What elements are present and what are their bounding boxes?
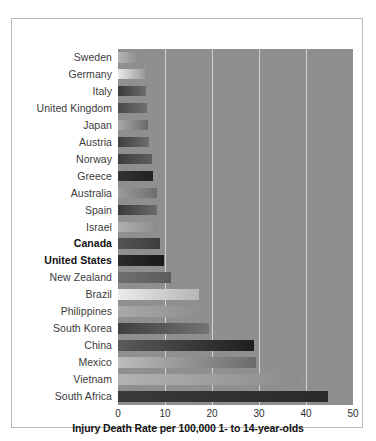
bar-row: Germany — [12, 66, 364, 83]
category-label: South Korea — [12, 320, 112, 337]
x-tick-label-10: 10 — [152, 408, 178, 419]
category-label: South Africa — [12, 388, 112, 405]
category-label: Japan — [12, 117, 112, 134]
top-cutoff-strip: · · · — [0, 0, 376, 14]
bar — [118, 374, 299, 385]
bar-row: United Kingdom — [12, 100, 364, 117]
bar-row: Mexico — [12, 354, 364, 371]
bar — [118, 222, 157, 233]
category-label: Italy — [12, 83, 112, 100]
bar — [118, 323, 209, 334]
bar — [118, 238, 160, 249]
category-label: Greece — [12, 168, 112, 185]
bar — [118, 69, 145, 80]
bar — [118, 205, 157, 216]
category-label: Australia — [12, 185, 112, 202]
bar-row: China — [12, 337, 364, 354]
category-label: Spain — [12, 202, 112, 219]
bar-row: South Africa — [12, 388, 364, 405]
bar-row: Philippines — [12, 303, 364, 320]
bar-row: Italy — [12, 83, 364, 100]
bar-row: Israel — [12, 219, 364, 236]
x-tick-label-40: 40 — [293, 408, 319, 419]
category-label: Israel — [12, 219, 112, 236]
category-label: Vietnam — [12, 371, 112, 388]
bar-row: Spain — [12, 202, 364, 219]
category-label: Norway — [12, 151, 112, 168]
category-label: Austria — [12, 134, 112, 151]
bar-rows-container: SwedenGermanyItalyUnited KingdomJapanAus… — [12, 49, 364, 405]
bar-row: Australia — [12, 185, 364, 202]
bar-row: Norway — [12, 151, 364, 168]
bar-row: Canada — [12, 235, 364, 252]
bar — [118, 357, 256, 368]
category-label: Canada — [12, 235, 112, 252]
bar — [118, 120, 148, 131]
category-label: Germany — [12, 66, 112, 83]
x-tick-label-0: 0 — [105, 408, 131, 419]
bar — [118, 52, 139, 63]
chart-figure-frame: SwedenGermanyItalyUnited KingdomJapanAus… — [11, 18, 363, 428]
bar — [118, 255, 164, 266]
bar — [118, 340, 254, 351]
bar-row: South Korea — [12, 320, 364, 337]
bar-row: Vietnam — [12, 371, 364, 388]
bar — [118, 289, 199, 300]
x-tick-label-30: 30 — [246, 408, 272, 419]
bar-row: Brazil — [12, 286, 364, 303]
bar-row: New Zealand — [12, 269, 364, 286]
bar-row: Greece — [12, 168, 364, 185]
bar — [118, 272, 171, 283]
category-label: United Kingdom — [12, 100, 112, 117]
bar — [118, 171, 153, 182]
category-label: Sweden — [12, 49, 112, 66]
bar-row: United States — [12, 252, 364, 269]
category-label: United States — [12, 252, 112, 269]
bar — [118, 188, 157, 199]
bar-row: Austria — [12, 134, 364, 151]
x-tick-label-20: 20 — [199, 408, 225, 419]
category-label: Mexico — [12, 354, 112, 371]
category-label: New Zealand — [12, 269, 112, 286]
cutoff-title-text: · · · — [228, 0, 250, 3]
bar-row: Sweden — [12, 49, 364, 66]
category-label: Philippines — [12, 303, 112, 320]
x-tick-label-50: 50 — [340, 408, 366, 419]
bar — [118, 391, 328, 402]
category-label: Brazil — [12, 286, 112, 303]
bar — [118, 154, 152, 165]
bar — [118, 306, 204, 317]
bar — [118, 137, 149, 148]
category-label: China — [12, 337, 112, 354]
bar — [118, 103, 147, 114]
bar — [118, 86, 146, 97]
x-axis-title: Injury Death Rate per 100,000 1- to 14-y… — [12, 422, 364, 434]
bar-row: Japan — [12, 117, 364, 134]
